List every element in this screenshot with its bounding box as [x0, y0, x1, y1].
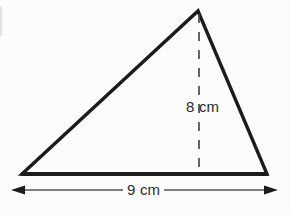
base-dimension-label: 9 cm — [123, 182, 164, 197]
geometry-figure: 8 cm 9 cm — [0, 0, 290, 215]
left-arrowhead-icon — [11, 185, 25, 194]
right-arrowhead-icon — [264, 185, 278, 194]
triangle-shape — [22, 11, 267, 174]
height-dimension-label: 8 cm — [186, 99, 219, 114]
